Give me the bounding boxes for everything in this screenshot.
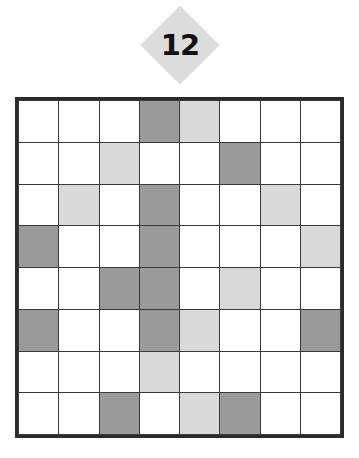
grid-cell-r5-c2[interactable]	[59, 268, 99, 310]
grid-cell-r5-c8[interactable]	[300, 268, 340, 310]
grid-cell-r4-c3[interactable]	[99, 226, 139, 268]
grid-cell-r3-c3[interactable]	[99, 184, 139, 226]
grid-cell-r6-c8[interactable]	[300, 309, 340, 351]
grid-cell-r5-c6[interactable]	[220, 268, 260, 310]
grid-cell-r3-c2[interactable]	[59, 184, 99, 226]
grid-cell-r3-c7[interactable]	[260, 184, 300, 226]
grid-cell-r3-c6[interactable]	[220, 184, 260, 226]
grid-cell-r6-c3[interactable]	[99, 309, 139, 351]
grid-cell-r7-c1[interactable]	[19, 351, 59, 393]
grid-cell-r8-c7[interactable]	[260, 393, 300, 435]
grid-row	[19, 309, 341, 351]
grid-cell-r1-c5[interactable]	[180, 101, 220, 143]
grid-row	[19, 142, 341, 184]
grid-cell-r4-c4[interactable]	[139, 226, 179, 268]
grid-cell-r5-c4[interactable]	[139, 268, 179, 310]
grid-row	[19, 184, 341, 226]
grid-cell-r3-c1[interactable]	[19, 184, 59, 226]
grid-cell-r8-c8[interactable]	[300, 393, 340, 435]
grid-row	[19, 268, 341, 310]
grid-cell-r2-c3[interactable]	[99, 142, 139, 184]
grid-cell-r6-c2[interactable]	[59, 309, 99, 351]
grid-cell-r2-c8[interactable]	[300, 142, 340, 184]
grid-cell-r6-c4[interactable]	[139, 309, 179, 351]
grid-cell-r7-c4[interactable]	[139, 351, 179, 393]
grid-table	[18, 100, 341, 435]
grid-cell-r4-c1[interactable]	[19, 226, 59, 268]
grid-cell-r6-c5[interactable]	[180, 309, 220, 351]
grid-cell-r1-c7[interactable]	[260, 101, 300, 143]
grid-cell-r7-c5[interactable]	[180, 351, 220, 393]
grid-cell-r1-c4[interactable]	[139, 101, 179, 143]
grid-cell-r1-c2[interactable]	[59, 101, 99, 143]
grid-cell-r7-c3[interactable]	[99, 351, 139, 393]
grid-cell-r1-c6[interactable]	[220, 101, 260, 143]
grid-row	[19, 101, 341, 143]
grid-cell-r1-c1[interactable]	[19, 101, 59, 143]
grid-cell-r1-c8[interactable]	[300, 101, 340, 143]
grid-cell-r8-c1[interactable]	[19, 393, 59, 435]
grid-row	[19, 351, 341, 393]
grid-cell-r8-c5[interactable]	[180, 393, 220, 435]
puzzle-grid	[15, 97, 344, 438]
grid-cell-r5-c3[interactable]	[99, 268, 139, 310]
grid-cell-r4-c5[interactable]	[180, 226, 220, 268]
grid-cell-r8-c6[interactable]	[220, 393, 260, 435]
grid-cell-r4-c2[interactable]	[59, 226, 99, 268]
grid-cell-r2-c7[interactable]	[260, 142, 300, 184]
grid-cell-r5-c1[interactable]	[19, 268, 59, 310]
grid-cell-r8-c2[interactable]	[59, 393, 99, 435]
grid-cell-r2-c1[interactable]	[19, 142, 59, 184]
badge-value-label: 12	[152, 17, 208, 73]
grid-cell-r2-c5[interactable]	[180, 142, 220, 184]
grid-cell-r3-c8[interactable]	[300, 184, 340, 226]
grid-cell-r6-c6[interactable]	[220, 309, 260, 351]
grid-cell-r2-c6[interactable]	[220, 142, 260, 184]
grid-cell-r5-c7[interactable]	[260, 268, 300, 310]
grid-row	[19, 226, 341, 268]
grid-cell-r8-c3[interactable]	[99, 393, 139, 435]
grid-cell-r5-c5[interactable]	[180, 268, 220, 310]
grid-cell-r3-c4[interactable]	[139, 184, 179, 226]
grid-cell-r2-c4[interactable]	[139, 142, 179, 184]
grid-cell-r7-c2[interactable]	[59, 351, 99, 393]
grid-cell-r7-c6[interactable]	[220, 351, 260, 393]
grid-cell-r3-c5[interactable]	[180, 184, 220, 226]
grid-cell-r2-c2[interactable]	[59, 142, 99, 184]
grid-cell-r4-c6[interactable]	[220, 226, 260, 268]
grid-body	[19, 101, 341, 435]
grid-cell-r6-c1[interactable]	[19, 309, 59, 351]
grid-cell-r8-c4[interactable]	[139, 393, 179, 435]
grid-cell-r7-c7[interactable]	[260, 351, 300, 393]
grid-cell-r1-c3[interactable]	[99, 101, 139, 143]
grid-cell-r4-c7[interactable]	[260, 226, 300, 268]
grid-row	[19, 393, 341, 435]
grid-cell-r4-c8[interactable]	[300, 226, 340, 268]
grid-cell-r7-c8[interactable]	[300, 351, 340, 393]
puzzle-badge: 12	[0, 0, 359, 92]
grid-cell-r6-c7[interactable]	[260, 309, 300, 351]
